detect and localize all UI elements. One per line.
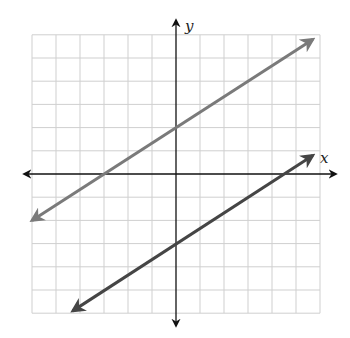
lower-line: [73, 155, 313, 310]
y-axis-label: y: [184, 17, 194, 35]
x-axis-label: x: [320, 149, 329, 167]
plotted-lines: [32, 39, 313, 310]
coordinate-plane: x y: [0, 0, 350, 338]
upper-line: [32, 39, 313, 220]
